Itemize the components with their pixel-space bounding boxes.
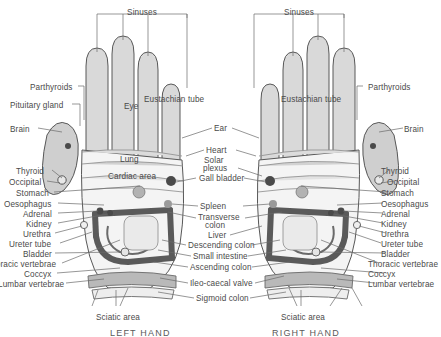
label-left-oesophagus: Oesophagus bbox=[4, 201, 51, 210]
label-center-spleen: Spleen bbox=[200, 203, 226, 212]
label-right-thoracic-vertebrae: Thoracic vertebrae bbox=[368, 261, 438, 270]
label-left-thoracic-vertebrae: Thoracic vertebrae bbox=[0, 261, 56, 270]
label-left-lumbar-vertebrae: Lumbar vertebrae bbox=[0, 281, 64, 290]
label-left-pituitary-gland: Pituitary gland bbox=[10, 102, 63, 111]
right-gall-or-spleen-dot bbox=[296, 186, 308, 198]
label-left-hand-cardiac-area: Cardiac area bbox=[108, 173, 156, 182]
label-bottom-sciatic-area: Sciatic area bbox=[96, 314, 140, 323]
caption-left-hand: LEFT HAND bbox=[110, 328, 171, 337]
label-bottom-sciatic-area: Sciatic area bbox=[281, 314, 325, 323]
left-gall-or-spleen-dot bbox=[133, 186, 145, 198]
label-right-lumbar-vertebrae: Lumbar vertebrae bbox=[368, 281, 434, 290]
label-left-hand-lung: Lung bbox=[120, 156, 139, 165]
label-left-parthyroids: Parthyroids bbox=[30, 84, 73, 93]
label-right-urethra: Urethra bbox=[381, 231, 409, 240]
left-index-finger bbox=[86, 48, 108, 160]
label-left-urethra: Urethra bbox=[23, 231, 51, 240]
label-left-adrenal: Adrenal bbox=[23, 211, 52, 220]
right-cardiac-dot bbox=[265, 176, 275, 186]
bracket-label-sinuses-left: Sinuses bbox=[117, 9, 167, 18]
left-cardiac-dot bbox=[166, 176, 176, 186]
label-left-brain: Brain bbox=[10, 126, 30, 135]
label-right-hand-eustachian-tube: Eustachian tube bbox=[281, 96, 341, 105]
label-left-hand-eye: Eye bbox=[124, 103, 138, 112]
left-kidney-dot bbox=[107, 210, 113, 216]
label-left-kidney: Kidney bbox=[26, 221, 52, 230]
left-urethra-circle bbox=[80, 221, 87, 228]
label-right-parthyroids: Parthyroids bbox=[368, 84, 411, 93]
left-bladder-dot bbox=[121, 248, 129, 256]
left-wrist-base bbox=[92, 287, 174, 299]
label-right-coccyx: Coccyx bbox=[368, 271, 395, 280]
caption-right-hand: RIGHT HAND bbox=[272, 328, 340, 337]
label-right-brain: Brain bbox=[404, 126, 424, 135]
left-ring-finger bbox=[138, 52, 158, 160]
right-ring-finger bbox=[283, 52, 303, 160]
left-spleen-dot bbox=[164, 200, 172, 208]
label-left-bladder: Bladder bbox=[23, 251, 52, 260]
label-center-liver: Liver bbox=[208, 232, 226, 241]
label-center-colon: colon bbox=[205, 222, 225, 231]
label-center-small-intestine: Small intestine bbox=[193, 253, 248, 262]
left-hand-figure bbox=[42, 36, 183, 299]
label-left-occipital: Occipital bbox=[9, 179, 41, 188]
label-center-gall-bladder: Gall bladder bbox=[199, 175, 244, 184]
label-right-oesophagus: Oesophagus bbox=[381, 201, 428, 210]
label-center-sigmoid-colon: Sigmoid colon bbox=[196, 295, 249, 304]
right-urethra-circle bbox=[353, 221, 360, 228]
label-left-stomach: Stomach bbox=[16, 190, 49, 199]
label-left-ureter-tube: Ureter tube bbox=[9, 241, 51, 250]
label-center-plexus: plexus bbox=[203, 165, 227, 174]
left-middle-finger bbox=[112, 36, 134, 158]
label-right-thyroid: Thyroid bbox=[381, 168, 409, 177]
label-center-ear: Ear bbox=[214, 125, 227, 134]
label-left-coccyx: Coccyx bbox=[24, 271, 51, 280]
label-center-heart: Heart bbox=[206, 147, 227, 156]
label-right-stomach: Stomach bbox=[381, 190, 414, 199]
right-kidney-dot bbox=[328, 210, 334, 216]
right-spleen-dot bbox=[269, 200, 277, 208]
label-right-bladder: Bladder bbox=[381, 251, 410, 260]
label-center-descending-colon: Descending colon bbox=[188, 242, 255, 251]
label-right-kidney: Kidney bbox=[381, 221, 407, 230]
bracket-label-sinuses-right: Sinuses bbox=[274, 9, 324, 18]
right-pituitary-dot bbox=[370, 143, 376, 149]
right-bladder-dot bbox=[312, 248, 320, 256]
label-left-hand-eustachian-tube: Eustachian tube bbox=[144, 96, 204, 105]
label-center-ileo-caecal-valve: Ileo-caecal valve bbox=[190, 280, 253, 289]
label-center-ascending-colon: Ascending colon bbox=[190, 264, 252, 273]
label-left-thyroid: Thyroid bbox=[16, 168, 44, 177]
left-pituitary-dot bbox=[65, 143, 71, 149]
label-right-occipital: Occipital bbox=[387, 179, 419, 188]
label-right-ureter-tube: Ureter tube bbox=[381, 241, 423, 250]
label-right-adrenal: Adrenal bbox=[381, 211, 410, 220]
